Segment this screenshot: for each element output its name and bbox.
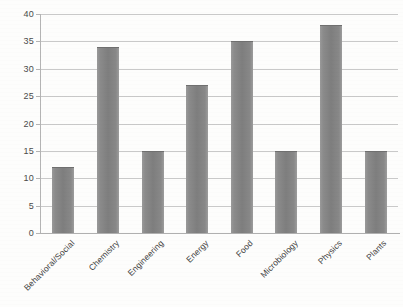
y-axis-tick-marks — [0, 14, 40, 233]
bar — [97, 47, 119, 233]
bar — [231, 41, 253, 233]
bar-series — [41, 14, 398, 233]
x-label-slot: Energy — [175, 236, 220, 307]
x-axis-line — [40, 233, 400, 234]
x-axis-label: Physics — [316, 238, 344, 266]
x-axis-label: Food — [234, 238, 255, 259]
x-label-slot: Food — [220, 236, 265, 307]
bar — [142, 151, 164, 233]
x-label-slot: Microbiology — [264, 236, 309, 307]
x-axis-label: Energy — [184, 238, 211, 265]
x-label-slot: Physics — [309, 236, 354, 307]
x-label-slot: Engineering — [130, 236, 175, 307]
x-axis-label: Plants — [365, 238, 389, 262]
x-label-slot: Chemistry — [86, 236, 131, 307]
x-axis-label: Chemistry — [86, 238, 121, 273]
x-axis-label: Engineering — [126, 238, 166, 278]
bar — [320, 25, 342, 233]
bar-slot — [86, 14, 131, 233]
x-axis-category-labels: Behavioral/SocialChemistryEngineeringEne… — [41, 236, 398, 307]
bar-slot — [353, 14, 398, 233]
bar — [52, 167, 74, 233]
bar — [186, 85, 208, 233]
bar-slot — [130, 14, 175, 233]
bar-slot — [220, 14, 265, 233]
bar-slot — [309, 14, 354, 233]
x-axis-label: Microbiology — [258, 238, 300, 280]
bar — [275, 151, 297, 233]
x-label-slot: Behavioral/Social — [41, 236, 86, 307]
x-axis-label: Behavioral/Social — [22, 238, 77, 293]
bar-slot — [41, 14, 86, 233]
bar-slot — [264, 14, 309, 233]
bar-slot — [175, 14, 220, 233]
bar-chart: 4035302520151050 Behavioral/SocialChemis… — [0, 0, 403, 307]
bar — [365, 151, 387, 233]
x-label-slot: Plants — [353, 236, 398, 307]
